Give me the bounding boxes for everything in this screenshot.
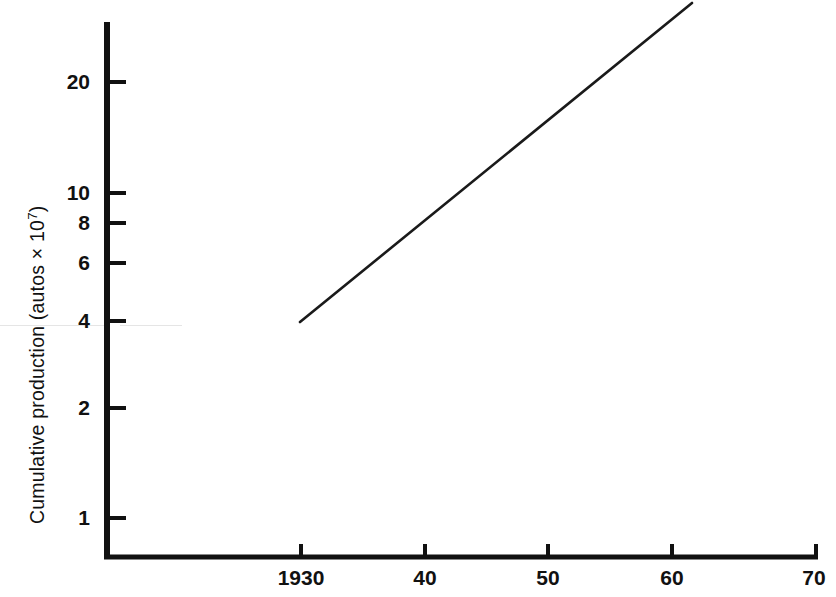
y-axis-title: Cumulative production (autos × 107) bbox=[26, 206, 49, 524]
y-axis-title-prefix: Cumulative production (autos × 10 bbox=[26, 220, 48, 524]
x-tick-label-40: 40 bbox=[413, 566, 436, 590]
x-tick-label-70: 70 bbox=[802, 566, 825, 590]
chart-figure: 20 10 8 6 4 2 1 1930 40 50 60 70 Cumulat… bbox=[0, 0, 836, 597]
y-tick-label-10: 10 bbox=[40, 181, 90, 205]
x-tick-label-1930: 1930 bbox=[278, 566, 325, 590]
y-axis-title-suffix: ) bbox=[26, 206, 48, 213]
x-tick-label-60: 60 bbox=[660, 566, 683, 590]
plot-area bbox=[0, 0, 836, 597]
y-tick-label-20: 20 bbox=[40, 70, 90, 94]
x-tick-label-50: 50 bbox=[536, 566, 559, 590]
y-axis-title-exponent: 7 bbox=[25, 212, 40, 220]
data-line-cumulative-production bbox=[300, 3, 692, 322]
